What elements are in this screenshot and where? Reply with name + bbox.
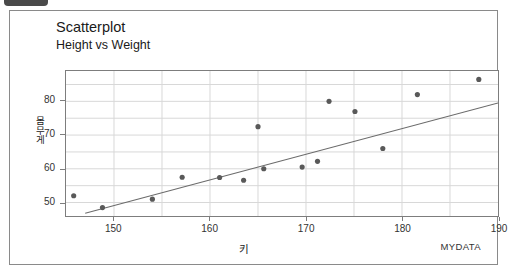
data-point[interactable] [415,92,420,97]
data-point[interactable] [150,197,155,202]
data-point[interactable] [315,159,320,164]
y-axis-tick-label: 50 [29,196,55,207]
x-axis-tick [402,217,403,221]
chart-title-block: Scatterplot Height vs Weight [56,19,150,52]
data-point[interactable] [100,205,105,210]
x-axis-title-label: 키 [239,243,249,255]
x-axis-tick-label: 160 [190,223,230,234]
x-axis-tick-label: 180 [383,223,423,234]
regression-line [85,103,498,213]
data-points [71,77,481,210]
window-corner-tab[interactable] [4,0,48,6]
y-axis-tick [60,100,65,101]
y-axis-tick [60,203,65,204]
x-axis-tick-label: 170 [286,223,326,234]
data-point[interactable] [326,99,331,104]
y-axis-tick-label: 70 [29,128,55,139]
x-axis-tick-label: 150 [93,223,133,234]
data-point[interactable] [380,146,385,151]
gridlines [66,71,498,216]
data-point[interactable] [241,178,246,183]
chart-subtitle: Height vs Weight [56,38,150,52]
data-point[interactable] [180,175,185,180]
data-point[interactable] [352,109,357,114]
x-axis-tick [113,217,114,221]
y-axis-tick-label: 80 [29,94,55,105]
data-point[interactable] [261,166,266,171]
x-axis-tick [209,217,210,221]
data-point[interactable] [300,165,305,170]
x-axis-tick-label: 190 [479,223,508,234]
data-point[interactable] [217,175,222,180]
chart-panel: Scatterplot Height vs Weight 몸 무 게 키 MYD… [9,10,498,265]
data-point[interactable] [71,193,76,198]
page-title: Scatterplot [56,19,150,36]
data-point[interactable] [255,124,260,129]
y-axis-tick [60,134,65,135]
x-axis-title: 키 [10,241,508,256]
y-axis-tick [60,169,65,170]
watermark-label: MYDATA [440,241,481,252]
data-point[interactable] [476,77,481,82]
x-axis-tick [499,217,500,221]
scatter-plot-svg [66,71,498,216]
plot-area [65,70,499,217]
y-axis-tick-label: 60 [29,162,55,173]
x-axis-tick [306,217,307,221]
